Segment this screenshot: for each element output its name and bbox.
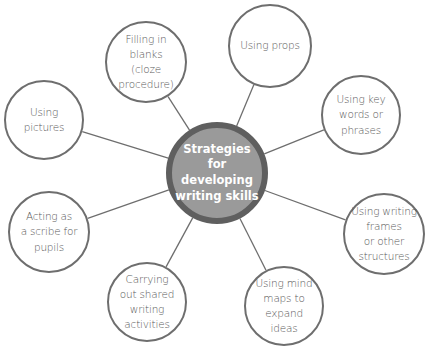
node-carrying-out-shared-writing: Carrying out shared writing activities	[107, 262, 187, 342]
central-topic: Strategies for developing writing skills	[166, 122, 268, 224]
connector-using-props	[237, 85, 254, 126]
connector-using-pictures	[82, 132, 168, 158]
node-label: Acting as a scribe for pupils	[21, 209, 78, 255]
node-using-writing-frames: Using writing frames or other structures	[343, 193, 425, 275]
node-using-props: Using props	[228, 4, 312, 88]
node-using-mind-maps: Using mind maps to expand ideas	[244, 266, 324, 346]
node-filling-in-blanks: Filling in blanks (cloze procedure)	[105, 21, 187, 103]
node-label: Using mind maps to expand ideas	[252, 276, 316, 337]
node-label: Using pictures	[24, 105, 65, 135]
connector-using-writing-frames	[265, 190, 346, 219]
node-label: Using props	[240, 38, 299, 53]
node-label: Filling in blanks (cloze procedure)	[113, 32, 179, 93]
node-acting-as-scribe: Acting as a scribe for pupils	[8, 191, 90, 273]
node-label: Using key words or phrases	[337, 92, 386, 138]
connector-using-mind-maps	[240, 219, 266, 271]
node-label: Carrying out shared writing activities	[120, 272, 174, 333]
mind-map-diagram: Strategies for developing writing skills…	[0, 0, 426, 349]
node-using-key-words: Using key words or phrases	[321, 75, 401, 155]
connector-using-key-words	[264, 130, 324, 154]
connector-filling-in-blanks	[168, 97, 189, 130]
connector-carrying-out-shared-writing	[166, 218, 193, 267]
node-label: Using writing frames or other structures	[351, 204, 417, 265]
connector-acting-as-scribe	[88, 190, 169, 219]
central-topic-label: Strategies for developing writing skills	[175, 142, 258, 204]
node-using-pictures: Using pictures	[4, 80, 84, 160]
